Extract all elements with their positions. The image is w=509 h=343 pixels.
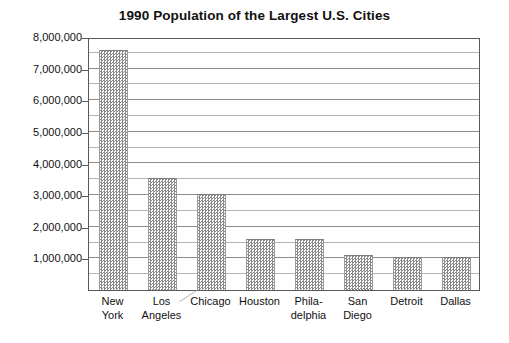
y-axis: 8,000,0007,000,0006,000,0005,000,0004,00… (0, 38, 82, 291)
bar-series (89, 39, 479, 290)
x-axis: NewYorkLosAngelesChicagoHoustonPhila-del… (88, 295, 480, 339)
y-axis-tick-label: 4,000,000 (0, 159, 82, 170)
y-axis-tick-label: 8,000,000 (0, 32, 82, 43)
plot-area (88, 38, 480, 291)
y-axis-tick-label: 6,000,000 (0, 95, 82, 106)
page-title: 1990 Population of the Largest U.S. Citi… (0, 8, 509, 23)
y-axis-tick-label: 2,000,000 (0, 222, 82, 233)
x-axis-tick-label: Dallas (425, 295, 486, 309)
x-axis-tick-label-line: Dallas (425, 295, 486, 309)
x-axis-tick-label-line: Diego (327, 309, 388, 323)
bar (344, 255, 373, 290)
y-axis-tick-label: 7,000,000 (0, 64, 82, 75)
x-axis-tick-label-line: Angeles (131, 309, 192, 323)
bar (393, 257, 422, 290)
bar (246, 239, 275, 290)
y-axis-tick-label: 5,000,000 (0, 127, 82, 138)
bar (197, 194, 226, 290)
bar (295, 239, 324, 290)
y-axis-tick-label: 3,000,000 (0, 190, 82, 201)
bar (148, 178, 177, 290)
bar (442, 257, 471, 290)
y-axis-tick-label: 1,000,000 (0, 253, 82, 264)
bar (99, 50, 128, 290)
